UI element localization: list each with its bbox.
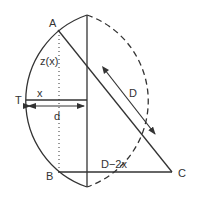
chord-ac	[58, 30, 172, 172]
arrow-d-left-head	[27, 103, 36, 109]
label-d-small: d	[54, 110, 60, 122]
label-D: D	[129, 87, 137, 99]
geometry-diagram: A z(x) T x d D B D−2x C	[0, 0, 217, 202]
label-a: A	[49, 17, 57, 29]
label-t: T	[15, 94, 22, 106]
label-x: x	[37, 87, 43, 99]
label-c: C	[178, 167, 186, 179]
circle-arc-solid	[26, 15, 87, 187]
label-b: B	[46, 170, 53, 182]
label-z: z(x)	[40, 55, 58, 67]
arrow-D-top-head	[102, 66, 109, 74]
arrow-D	[105, 70, 155, 134]
label-d-minus-2x: D−2x	[101, 158, 127, 170]
